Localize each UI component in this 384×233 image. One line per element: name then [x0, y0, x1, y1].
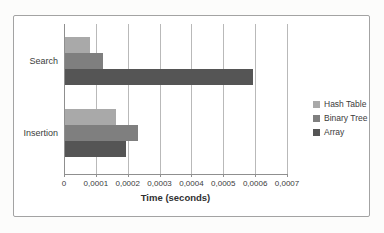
- bar-hash-table: [65, 109, 116, 125]
- legend-item: Binary Tree: [313, 111, 367, 125]
- legend: Hash TableBinary TreeArray: [313, 97, 367, 139]
- gridline: [128, 24, 129, 174]
- category-label: Search: [20, 56, 58, 66]
- chart-frame: 00,00010,00020,00030,00040,00050,00060,0…: [13, 15, 370, 217]
- legend-item: Array: [313, 125, 367, 139]
- legend-label: Hash Table: [324, 99, 366, 109]
- gridline: [287, 24, 288, 174]
- legend-swatch-icon: [313, 129, 320, 136]
- gridline: [255, 24, 256, 174]
- legend-swatch-icon: [313, 115, 320, 122]
- bar-binary-tree: [65, 53, 103, 69]
- x-axis-title: Time (seconds): [64, 192, 287, 203]
- bar-binary-tree: [65, 125, 138, 141]
- category-label: Insertion: [20, 128, 58, 138]
- legend-label: Binary Tree: [324, 113, 367, 123]
- bar-hash-table: [65, 37, 90, 53]
- gridline: [223, 24, 224, 174]
- bar-array: [65, 141, 126, 157]
- legend-swatch-icon: [313, 101, 320, 108]
- axis-tick: [287, 174, 288, 177]
- bar-array: [65, 69, 253, 85]
- gridline: [160, 24, 161, 174]
- gridline: [191, 24, 192, 174]
- x-tick-label: 0,0007: [267, 179, 307, 188]
- x-axis-line: [64, 174, 287, 175]
- legend-label: Array: [324, 127, 344, 137]
- legend-item: Hash Table: [313, 97, 367, 111]
